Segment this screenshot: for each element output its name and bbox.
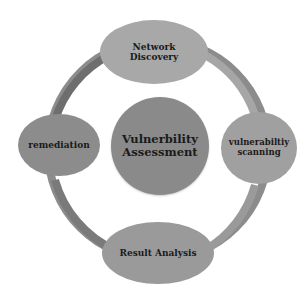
node-vulnerability-scanning: vulnerabiltiy scanning	[221, 112, 297, 184]
node-network-discovery: Network Discovery	[100, 20, 208, 84]
node-label-line: Result Analysis	[119, 248, 196, 258]
node-label-line: remediation	[28, 140, 89, 150]
node-label-line: scanning	[229, 148, 289, 158]
node-label-line: Discovery	[130, 52, 179, 62]
center-node-vulnerability-assessment: Vulnerbility Assessment	[111, 97, 209, 195]
node-remediation: remediation	[18, 114, 100, 176]
center-label-line: Assessment	[122, 146, 198, 159]
vulnerability-assessment-cycle-diagram: Network Discovery vulnerabiltiy scanning…	[0, 0, 308, 285]
node-label-line: Network	[130, 42, 179, 52]
node-result-analysis: Result Analysis	[102, 222, 214, 284]
